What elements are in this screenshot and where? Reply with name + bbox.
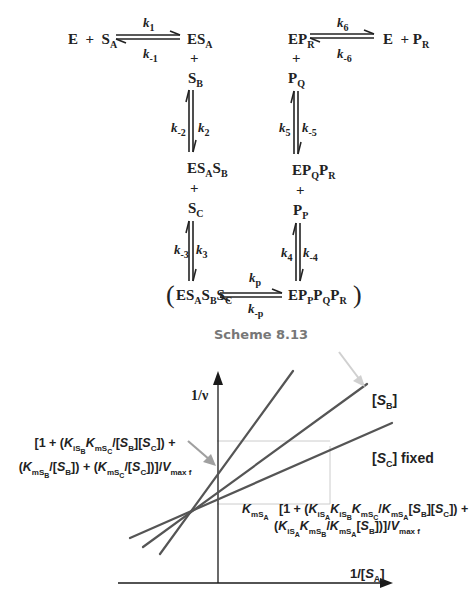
sc-fixed-label: [SC] fixed (372, 450, 434, 469)
y-axis-arrowhead (213, 371, 223, 385)
y-intercept-line2: (KmSB/[SB]) + (KmSC/[SC])]/Vmax f (15, 459, 195, 483)
y-axis-label: 1/ν (191, 388, 208, 404)
y-intercept-line1: [1 + (KiSBKmSC/[SB][SC]) + (15, 435, 195, 459)
x-axis-label: 1/[SA] (350, 566, 385, 584)
sb-series-label: [SB] (372, 392, 397, 411)
y-intercept-expression: [1 + (KiSBKmSC/[SB][SC]) + (KmSB/[SB]) +… (15, 435, 195, 483)
slope-line2: (KiSAKmSB/KmSA[SB])]/Vmax f (274, 518, 420, 542)
slope-prefix: KmSA (242, 502, 269, 516)
sb-direction-arrow (339, 352, 365, 387)
slope-line1: [1 + (KiSAKiSBKmSC/KmSA[SB][SC]) + (279, 502, 468, 516)
